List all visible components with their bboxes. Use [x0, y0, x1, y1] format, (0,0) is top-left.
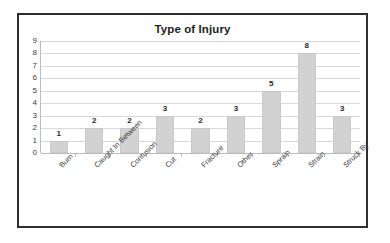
bar-slot: 1 [41, 41, 76, 153]
bar[interactable] [227, 116, 245, 153]
bar[interactable] [262, 91, 280, 153]
chart-title: Type of Injury [19, 23, 366, 35]
bar-value-label: 2 [183, 117, 218, 125]
y-axis-tick-label: 0 [17, 149, 37, 157]
bar-slot: 8 [289, 41, 324, 153]
x-axis-label-slot: Caught In Between [76, 159, 112, 229]
bar-slot: 5 [254, 41, 289, 153]
bar-value-label: 5 [254, 80, 289, 88]
bar-slot: 3 [325, 41, 360, 153]
bar-value-label: 3 [218, 105, 253, 113]
y-axis-tick-label: 8 [17, 49, 37, 57]
bar-slot: 3 [147, 41, 182, 153]
chart-figure-frame: Type of Injury 9876543210 122323583 Burn… [17, 13, 368, 228]
bar-slot: 2 [183, 41, 218, 153]
x-axis-label-slot: Burn [40, 159, 76, 229]
y-axis-tick-label: 4 [17, 99, 37, 107]
x-axis-label-slot: Cut [147, 159, 183, 229]
bar[interactable] [50, 141, 68, 153]
y-axis-tick-label: 3 [17, 112, 37, 120]
bar-value-label: 1 [41, 130, 76, 138]
y-axis-tick-label: 7 [17, 62, 37, 70]
y-axis-tick-label: 9 [17, 37, 37, 45]
x-axis-labels: BurnCaught In BetweenContusionCutFractur… [40, 159, 360, 229]
y-axis-tick-label: 2 [17, 124, 37, 132]
bar[interactable] [298, 53, 316, 153]
bar[interactable] [85, 128, 103, 153]
y-axis-tick-label: 5 [17, 87, 37, 95]
x-axis-label-slot: Fracture [182, 159, 218, 229]
x-axis-tick [147, 153, 183, 158]
x-axis-label-slot: Sprain [253, 159, 289, 229]
x-axis-label-slot: Contusion [111, 159, 147, 229]
y-axis: 9876543210 [19, 41, 39, 153]
bar-value-label: 8 [289, 42, 324, 50]
y-axis-tick-label: 1 [17, 137, 37, 145]
bar-series: 122323583 [41, 41, 360, 153]
bar[interactable] [156, 116, 174, 153]
x-axis-label-slot: Strain [289, 159, 325, 229]
bar[interactable] [333, 116, 351, 153]
bar-value-label: 3 [325, 105, 360, 113]
x-axis-label-slot: Struck By [325, 159, 361, 229]
x-axis-label-slot: Other [218, 159, 254, 229]
y-axis-tick-label: 6 [17, 74, 37, 82]
plot-wrapper: 9876543210 122323583 BurnCaught In Betwe… [19, 41, 366, 167]
bar-slot: 2 [76, 41, 111, 153]
bar-slot: 3 [218, 41, 253, 153]
plot-area: 122323583 [40, 41, 360, 153]
bar[interactable] [191, 128, 209, 153]
bar-value-label: 2 [76, 117, 111, 125]
bar-value-label: 3 [147, 105, 182, 113]
